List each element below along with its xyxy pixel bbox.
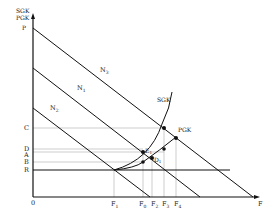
- x-axis-label-f: F: [258, 200, 263, 208]
- point-b: [141, 160, 145, 164]
- label-pgk: PGK: [178, 126, 192, 133]
- economics-diagram: SGK PGK P C D A B R 0 F F1 F0 F2 F3 F4 N…: [0, 0, 278, 217]
- label-e1: E1: [145, 147, 152, 155]
- origin-label: 0: [31, 199, 35, 207]
- y-axis-arrow-icon: [31, 13, 35, 19]
- x-ticks: F1 F0 F2 F3 F4: [111, 200, 182, 209]
- y-tick-b: B: [24, 158, 29, 166]
- label-d1: D1: [154, 156, 161, 164]
- label-sgk: SGK: [157, 96, 171, 103]
- svg-text:F2: F2: [151, 200, 159, 209]
- y-axis-label-pgk: PGK: [16, 14, 30, 21]
- demand-curve-n2: [33, 108, 150, 197]
- label-n1: N1: [77, 84, 86, 93]
- label-n3: N3: [100, 66, 109, 75]
- svg-text:F3: F3: [162, 200, 170, 209]
- svg-text:F1: F1: [111, 200, 119, 209]
- demand-curve-n1: [33, 68, 200, 197]
- x-axis-arrow-icon: [254, 195, 260, 199]
- y-tick-c: C: [24, 124, 29, 132]
- y-axis-label-sgk: SGK: [16, 7, 30, 14]
- label-n2: N2: [50, 104, 59, 113]
- point-c: [162, 126, 166, 130]
- svg-text:F0: F0: [139, 200, 147, 209]
- svg-text:F4: F4: [174, 200, 182, 209]
- point-pgk: [174, 136, 178, 140]
- point-pgk-mid: [162, 147, 166, 151]
- y-tick-r: R: [24, 166, 30, 174]
- y-axis-label-p: P: [22, 24, 26, 31]
